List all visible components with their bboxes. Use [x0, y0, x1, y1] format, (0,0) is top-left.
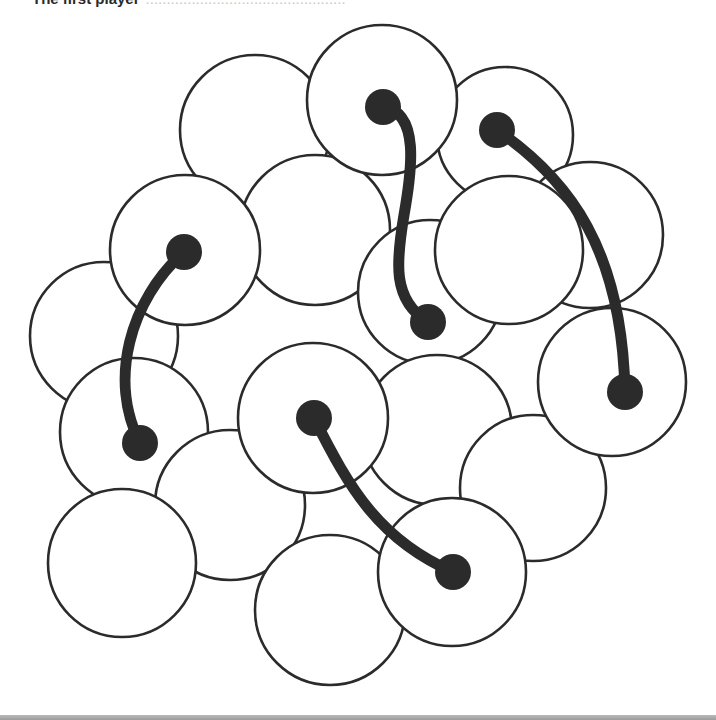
pin-t1-to-icon[interactable] [410, 304, 446, 340]
disc-board [0, 0, 716, 720]
pin-t3-from-icon[interactable] [166, 234, 202, 270]
pin-t4-from-icon[interactable] [296, 400, 332, 436]
pin-t1-from-icon[interactable] [365, 89, 401, 125]
pin-t4-to-icon[interactable] [435, 554, 471, 590]
disc-p[interactable] [48, 489, 196, 637]
disc-g[interactable] [435, 176, 583, 324]
pin-t2-from-icon[interactable] [479, 112, 515, 148]
pin-t2-to-icon[interactable] [607, 374, 643, 410]
pin-t3-to-icon[interactable] [122, 425, 158, 461]
footer-bar [0, 715, 716, 720]
